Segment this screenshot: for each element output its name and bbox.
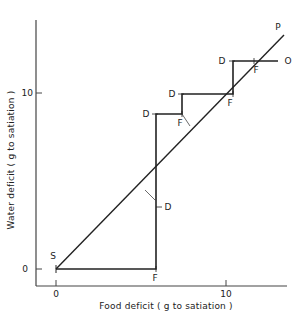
line-end-label: P (275, 22, 281, 32)
trajectory-path (56, 61, 278, 269)
food-label-3: F (227, 98, 232, 108)
y-axis-label: Water deficit ( g to satiation ) (6, 91, 16, 230)
perpendicular-marker-2 (182, 114, 190, 126)
food-label-1: F (152, 273, 157, 283)
axes (36, 20, 287, 286)
drink-label-1: D (143, 109, 150, 119)
drink-label-mid: D (165, 202, 172, 212)
diagram-canvas: 0 10 0 10 Food deficit ( g to satiation … (0, 0, 299, 321)
y-tick-label-10: 10 (22, 88, 34, 98)
food-label-2: F (177, 118, 182, 128)
drink-label-3: D (219, 56, 226, 66)
x-tick-label-10: 10 (220, 289, 232, 299)
x-tick-label-0: 0 (53, 289, 59, 299)
optimal-line (56, 35, 284, 269)
path-end-label: O (284, 56, 291, 66)
perpendicular-marker-1 (145, 190, 156, 201)
start-label: S (50, 251, 56, 261)
x-axis-label: Food deficit ( g to satiation ) (99, 301, 233, 311)
drink-label-2: D (169, 89, 176, 99)
food-label-4: F (253, 65, 258, 75)
y-tick-label-0: 0 (22, 264, 28, 274)
